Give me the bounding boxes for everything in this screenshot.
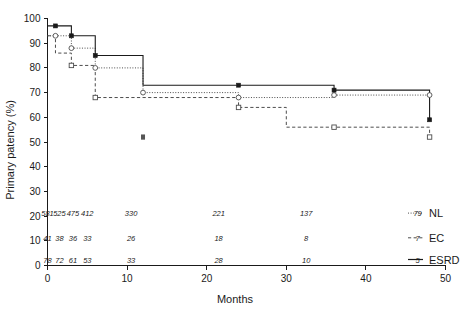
risk-count: 412	[81, 209, 94, 218]
risk-count: 33	[83, 234, 92, 243]
risk-count: 28	[213, 256, 223, 265]
marker-esrd	[53, 24, 57, 28]
risk-count: 26	[126, 234, 136, 243]
y-tick-label: 70	[29, 87, 41, 98]
x-axis-title: Months	[217, 293, 254, 305]
marker-nl	[332, 93, 337, 98]
risk-count: 137	[300, 209, 313, 218]
risk-count: 8	[304, 234, 309, 243]
marker-ec	[69, 63, 73, 67]
risk-count: 475	[67, 209, 80, 218]
y-tick-label: 30	[29, 186, 41, 197]
marker-nl	[69, 46, 74, 51]
x-tick-label: 40	[360, 273, 372, 284]
y-tick-label: 60	[29, 112, 41, 123]
x-tick-label: 20	[201, 273, 213, 284]
censor-markers	[53, 24, 432, 139]
y-tick-label: 40	[29, 161, 41, 172]
marker-ec	[332, 125, 336, 129]
risk-count: 10	[302, 256, 311, 265]
risk-count: 18	[214, 234, 223, 243]
marker-nl	[236, 95, 241, 100]
risk-count: 330	[125, 209, 138, 218]
y-tick-label: 10	[29, 235, 41, 246]
y-axis-title: Primary patency (%)	[4, 100, 16, 200]
y-tick-label: 100	[24, 13, 41, 24]
legend-label-ec: EC	[429, 232, 444, 244]
marker-ec	[427, 135, 431, 139]
legend-label-esrd: ESRD	[429, 254, 460, 266]
x-tick-label: 0	[45, 273, 51, 284]
risk-count: 38	[55, 234, 64, 243]
marker-ec	[236, 105, 240, 109]
risk-count: 525	[53, 209, 66, 218]
x-tick-label: 30	[281, 273, 293, 284]
marker-nl	[141, 90, 146, 95]
risk-count: 61	[69, 256, 77, 265]
risk-count: 41	[43, 234, 51, 243]
outlier-markers	[141, 134, 145, 139]
y-tick-label: 80	[29, 62, 41, 73]
marker-esrd	[428, 118, 432, 122]
kaplan-meier-chart: Primary patency (%) Months 0102030405060…	[0, 0, 468, 309]
y-tick-label: 90	[29, 38, 41, 49]
risk-count: 33	[127, 256, 136, 265]
outlier-marker	[141, 134, 145, 139]
y-tick-label: 20	[29, 211, 41, 222]
marker-ec	[93, 95, 97, 99]
x-tick-label: 50	[440, 273, 452, 284]
risk-count: 72	[55, 256, 64, 265]
y-tick-label: 0	[35, 260, 41, 271]
x-tick-label: 10	[122, 273, 134, 284]
risk-count: 78	[43, 256, 52, 265]
marker-esrd	[237, 83, 241, 87]
marker-esrd	[332, 88, 336, 92]
marker-nl	[93, 66, 98, 71]
risk-count: 36	[69, 234, 78, 243]
legend-label-nl: NL	[429, 207, 443, 219]
chart-svg: Primary patency (%) Months 0102030405060…	[0, 0, 468, 309]
y-tick-label: 50	[29, 137, 41, 148]
risk-count: 581	[41, 209, 54, 218]
risk-count: 53	[83, 256, 92, 265]
marker-esrd	[69, 34, 73, 38]
y-axis-ticks: 0102030405060708090100	[24, 13, 48, 271]
numbers-at-risk-table: 5815254754123302211377941383633261887787…	[41, 209, 422, 264]
curve-nl	[48, 36, 430, 98]
marker-nl	[427, 93, 432, 98]
marker-esrd	[93, 54, 97, 58]
survival-curves	[48, 26, 430, 137]
marker-nl	[53, 33, 58, 38]
risk-count: 221	[211, 209, 225, 218]
x-axis-ticks: 01020304050	[45, 266, 452, 284]
